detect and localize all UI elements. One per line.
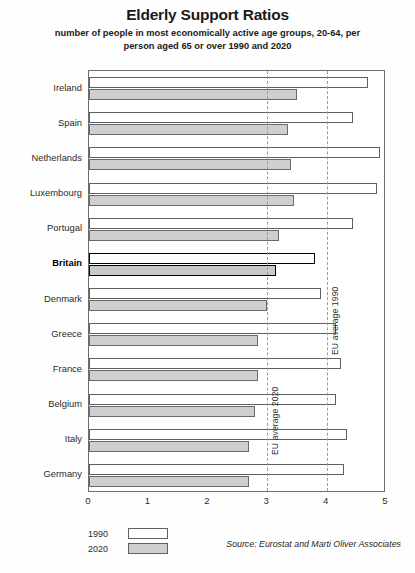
bar-germany-1990 xyxy=(89,464,344,475)
plot-area xyxy=(88,70,385,492)
page-title: Elderly Support Ratios xyxy=(0,6,415,24)
category-label-luxembourg: Luxembourg xyxy=(0,187,82,198)
title-block: Elderly Support Ratios number of people … xyxy=(0,6,415,52)
x-tick-2: 2 xyxy=(204,495,209,506)
bar-portugal-1990 xyxy=(89,218,353,229)
bar-luxembourg-1990 xyxy=(89,183,377,194)
source-note: Source: Eurostat and Marti Oliver Associ… xyxy=(226,539,401,549)
bar-greece-1990 xyxy=(89,323,336,334)
bar-group-france xyxy=(89,352,384,387)
bar-group-germany xyxy=(89,458,384,493)
reference-line-eu-average-1990 xyxy=(327,71,328,491)
bar-luxembourg-2020 xyxy=(89,195,294,206)
bar-portugal-2020 xyxy=(89,230,279,241)
bar-group-italy xyxy=(89,423,384,458)
category-label-italy: Italy xyxy=(0,433,82,444)
reference-label-eu-average-1990: EU average 1990 xyxy=(330,287,340,355)
category-label-portugal: Portugal xyxy=(0,222,82,233)
category-label-ireland: Ireland xyxy=(0,82,82,93)
x-tick-4: 4 xyxy=(323,495,328,506)
bar-group-ireland xyxy=(89,71,384,106)
legend-label-2020: 2020 xyxy=(88,544,122,554)
bar-denmark-1990 xyxy=(89,288,321,299)
bar-germany-2020 xyxy=(89,476,249,487)
bar-ireland-2020 xyxy=(89,89,297,100)
bar-group-portugal xyxy=(89,212,384,247)
chart-page: Elderly Support Ratios number of people … xyxy=(0,0,415,573)
x-tick-1: 1 xyxy=(145,495,150,506)
legend-item-1990: 1990 xyxy=(88,527,168,540)
category-label-denmark: Denmark xyxy=(0,293,82,304)
legend-item-2020: 2020 xyxy=(88,542,168,555)
x-tick-0: 0 xyxy=(85,495,90,506)
bar-france-2020 xyxy=(89,370,258,381)
category-label-spain: Spain xyxy=(0,117,82,128)
bar-britain-1990 xyxy=(89,253,315,264)
bar-belgium-1990 xyxy=(89,394,336,405)
legend-swatch-1990 xyxy=(128,528,168,539)
bars-container xyxy=(89,71,384,491)
bar-greece-2020 xyxy=(89,335,258,346)
category-label-britain: Britain xyxy=(0,257,82,268)
bar-italy-1990 xyxy=(89,429,347,440)
category-label-france: France xyxy=(0,363,82,374)
legend-label-1990: 1990 xyxy=(88,529,122,539)
legend: 19902020 xyxy=(88,527,168,557)
reference-line-eu-average-2020 xyxy=(267,71,268,491)
category-label-belgium: Belgium xyxy=(0,398,82,409)
category-label-greece: Greece xyxy=(0,328,82,339)
category-label-netherlands: Netherlands xyxy=(0,152,82,163)
x-tick-3: 3 xyxy=(264,495,269,506)
chart-subtitle: number of people in most economically ac… xyxy=(0,27,415,53)
x-tick-5: 5 xyxy=(382,495,387,506)
bar-spain-2020 xyxy=(89,124,288,135)
bar-italy-2020 xyxy=(89,441,249,452)
bar-spain-1990 xyxy=(89,112,353,123)
bar-netherlands-1990 xyxy=(89,147,380,158)
bar-group-belgium xyxy=(89,388,384,423)
reference-label-eu-average-2020: EU average 2020 xyxy=(270,387,280,455)
bar-group-luxembourg xyxy=(89,177,384,212)
category-label-germany: Germany xyxy=(0,468,82,479)
bar-britain-2020 xyxy=(89,265,276,276)
bar-group-spain xyxy=(89,106,384,141)
bar-netherlands-2020 xyxy=(89,159,291,170)
bar-belgium-2020 xyxy=(89,406,255,417)
legend-swatch-2020 xyxy=(128,543,168,554)
bar-group-netherlands xyxy=(89,141,384,176)
bar-group-britain xyxy=(89,247,384,282)
bar-france-1990 xyxy=(89,358,341,369)
bar-denmark-2020 xyxy=(89,300,267,311)
